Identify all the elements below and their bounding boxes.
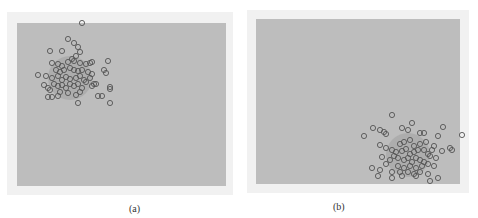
data-point <box>377 142 382 147</box>
data-point <box>431 163 436 168</box>
data-point <box>370 125 375 130</box>
data-point <box>379 154 384 159</box>
data-point <box>389 169 394 174</box>
data-point <box>409 120 414 125</box>
data-point <box>425 171 430 176</box>
data-point <box>377 167 382 172</box>
scatter-plot-b <box>0 0 478 218</box>
data-point <box>369 165 374 170</box>
data-point <box>433 155 438 160</box>
data-point <box>389 175 394 180</box>
data-point <box>399 125 404 130</box>
data-point <box>361 133 366 138</box>
data-point <box>389 112 394 117</box>
caption-a: (a) <box>129 203 140 214</box>
data-point <box>383 161 388 166</box>
data-point <box>435 175 440 180</box>
data-point <box>459 132 464 137</box>
data-point <box>405 127 410 132</box>
data-point <box>435 133 440 138</box>
data-point <box>440 124 445 129</box>
data-point <box>427 178 432 183</box>
caption-b: (b) <box>333 201 345 212</box>
data-point <box>439 148 444 153</box>
data-point <box>375 173 380 178</box>
